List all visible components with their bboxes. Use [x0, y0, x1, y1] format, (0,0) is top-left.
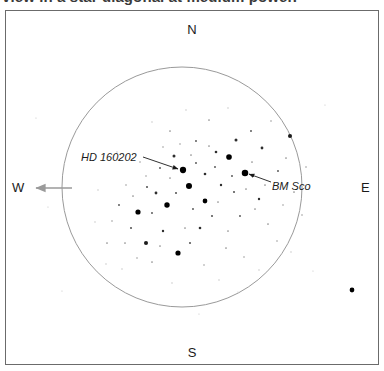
star-point [155, 192, 158, 195]
star-point [203, 264, 205, 266]
star-point [270, 120, 272, 122]
star-point [239, 215, 241, 217]
star-point [159, 245, 161, 247]
star-point [130, 227, 132, 229]
star-point [305, 166, 307, 168]
star-point [145, 175, 147, 177]
star-point [185, 109, 186, 110]
star-point [312, 270, 313, 271]
star-point [254, 208, 256, 210]
star-point [169, 130, 171, 132]
star-point [267, 223, 269, 225]
star-point [324, 104, 325, 105]
star-point [192, 208, 194, 210]
compass-label-north: N [0, 22, 384, 37]
star-point [151, 121, 152, 122]
compass-label-south: S [0, 345, 384, 360]
star-point [204, 173, 207, 176]
star-point [135, 209, 140, 214]
star-point [184, 227, 186, 229]
star-point [162, 146, 164, 148]
star-point [220, 184, 222, 186]
star-point [215, 151, 218, 154]
star-point [105, 263, 106, 264]
star-bm-sco [242, 170, 248, 176]
field-of-view-circle [62, 67, 302, 307]
star-point [233, 191, 235, 193]
star-point [195, 162, 197, 164]
star-point [350, 288, 355, 293]
star-point [218, 279, 219, 280]
star-point [111, 220, 113, 222]
star-point [301, 214, 303, 216]
star-label-bmsco: BM Sco [272, 180, 311, 192]
leader-arrow-bmsco [249, 174, 271, 182]
star-point [282, 204, 284, 206]
star-point [35, 117, 36, 118]
star-point [288, 134, 292, 138]
star-point [189, 242, 191, 244]
compass-label-west: W [12, 180, 24, 195]
star-point [172, 154, 175, 157]
star-point [151, 212, 153, 214]
star-hd-160202 [180, 167, 186, 173]
star-point [227, 107, 228, 108]
star-point [214, 166, 216, 168]
star-point [195, 140, 197, 142]
star-point [225, 247, 227, 249]
star-point [251, 161, 253, 163]
star-point [136, 257, 138, 259]
star-point [159, 167, 161, 169]
star-point [208, 119, 210, 121]
star-point [169, 177, 171, 179]
star-point [217, 201, 219, 203]
compass-label-east: E [361, 180, 370, 195]
star-point [237, 291, 238, 292]
star-point [261, 147, 264, 150]
star-point [198, 313, 199, 314]
star-point [276, 240, 278, 242]
star-point [258, 198, 260, 200]
star-point [199, 227, 202, 230]
star-point [231, 175, 233, 177]
star-point [234, 138, 237, 141]
star-point [151, 261, 153, 263]
star-point [97, 189, 98, 190]
star-point [124, 242, 126, 244]
star-point [190, 154, 192, 156]
star-point [144, 241, 148, 245]
star-point [139, 161, 141, 163]
star-point [203, 199, 208, 204]
star-point [164, 202, 169, 207]
star-point [250, 130, 252, 132]
star-point [285, 157, 287, 159]
star-chart-figure: view in a star diagonal at medium power.… [0, 0, 384, 371]
star-point [175, 250, 180, 255]
star-point [179, 143, 181, 145]
star-point [171, 282, 172, 283]
star-point [162, 230, 164, 232]
star-point [175, 192, 177, 194]
star-point [211, 215, 213, 217]
star-label-hd160202: HD 160202 [81, 151, 137, 163]
star-point [290, 251, 291, 252]
star-point [277, 170, 279, 172]
star-point [125, 184, 127, 186]
star-field-canvas [0, 0, 384, 371]
star-point [226, 154, 232, 160]
star-point [146, 186, 148, 188]
star-point [258, 269, 259, 270]
star-point [61, 290, 62, 291]
eyepiece-fov-circle [62, 67, 302, 307]
star-point [106, 242, 108, 244]
star-point [186, 183, 192, 189]
star-point [208, 145, 210, 147]
annotation-leader-layer [143, 157, 271, 182]
star-layer [35, 104, 354, 314]
star-point [118, 204, 120, 206]
star-point [264, 184, 266, 186]
star-point [132, 195, 134, 197]
star-point [94, 221, 95, 222]
star-point [121, 268, 122, 269]
star-point [245, 188, 247, 190]
